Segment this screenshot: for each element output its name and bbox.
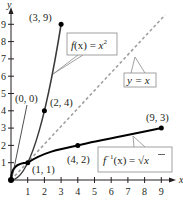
y-axis <box>8 7 14 180</box>
f-arg: (x) = <box>74 39 99 52</box>
point-1-1 <box>25 160 30 165</box>
label-3-9: (3, 9) <box>29 12 52 24</box>
y-axis-label: y <box>6 0 12 10</box>
point-2-4 <box>42 108 47 113</box>
y-tick-8: 8 <box>1 36 6 47</box>
finv-arg: (x) = <box>114 154 139 167</box>
y-tick-4: 4 <box>1 105 6 116</box>
x-tick-6: 6 <box>109 186 114 197</box>
f-exp: 2 <box>103 38 107 46</box>
point-3-9 <box>59 22 64 27</box>
function-inverse-chart: 1 2 3 4 5 6 7 8 9 1 2 3 4 5 6 7 8 9 x y … <box>0 0 183 205</box>
x-axis <box>11 177 176 183</box>
label-4-2: (4, 2) <box>67 154 90 166</box>
legend-box-f-inverse: f−1(x) = √x <box>98 136 172 172</box>
label-1-1: (1, 1) <box>32 164 55 176</box>
x-tick-7: 7 <box>125 186 130 197</box>
x-tick-1: 1 <box>25 186 30 197</box>
label-0-0: (0, 0) <box>15 93 38 105</box>
finv-var: x <box>143 154 149 166</box>
point-0-0 <box>8 177 14 183</box>
point-9-3 <box>159 126 164 131</box>
y-tick-labels: 1 2 3 4 5 6 7 8 9 <box>1 19 6 168</box>
y-tick-7: 7 <box>1 53 6 64</box>
x-tick-9: 9 <box>159 186 164 197</box>
y-tick-2: 2 <box>1 140 6 151</box>
identity-label: y = x <box>126 74 150 86</box>
legend-box-f: f(x) = x2 <box>53 33 117 74</box>
label-9-3: (9, 3) <box>146 112 169 124</box>
y-tick-3: 3 <box>1 122 6 133</box>
x-tick-labels: 1 2 3 4 5 6 7 8 9 <box>25 186 164 197</box>
x-tick-4: 4 <box>75 186 80 197</box>
y-tick-6: 6 <box>1 71 6 82</box>
y-tick-5: 5 <box>1 88 6 99</box>
x-tick-2: 2 <box>42 186 47 197</box>
x-tick-3: 3 <box>59 186 64 197</box>
legend-box-identity: y = x <box>124 57 156 87</box>
point-4-2 <box>75 143 80 148</box>
y-tick-1: 1 <box>1 157 6 168</box>
y-tick-9: 9 <box>1 19 6 30</box>
svg-text:f(x) = x2: f(x) = x2 <box>71 38 107 52</box>
x-tick-8: 8 <box>142 186 147 197</box>
label-2-4: (2, 4) <box>50 97 73 109</box>
x-tick-5: 5 <box>92 186 97 197</box>
x-axis-label: x <box>178 174 183 185</box>
